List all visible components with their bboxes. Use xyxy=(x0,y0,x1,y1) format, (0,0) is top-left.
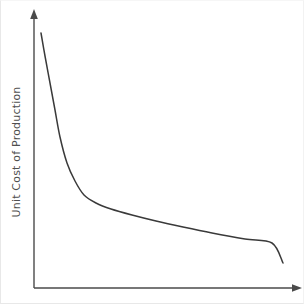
y-axis-arrow-icon xyxy=(30,9,38,19)
chart-figure: Unit Cost of Production xyxy=(0,0,304,304)
unit-cost-curve xyxy=(41,33,283,263)
plot-area xyxy=(0,0,304,304)
x-axis-arrow-icon xyxy=(292,284,302,292)
